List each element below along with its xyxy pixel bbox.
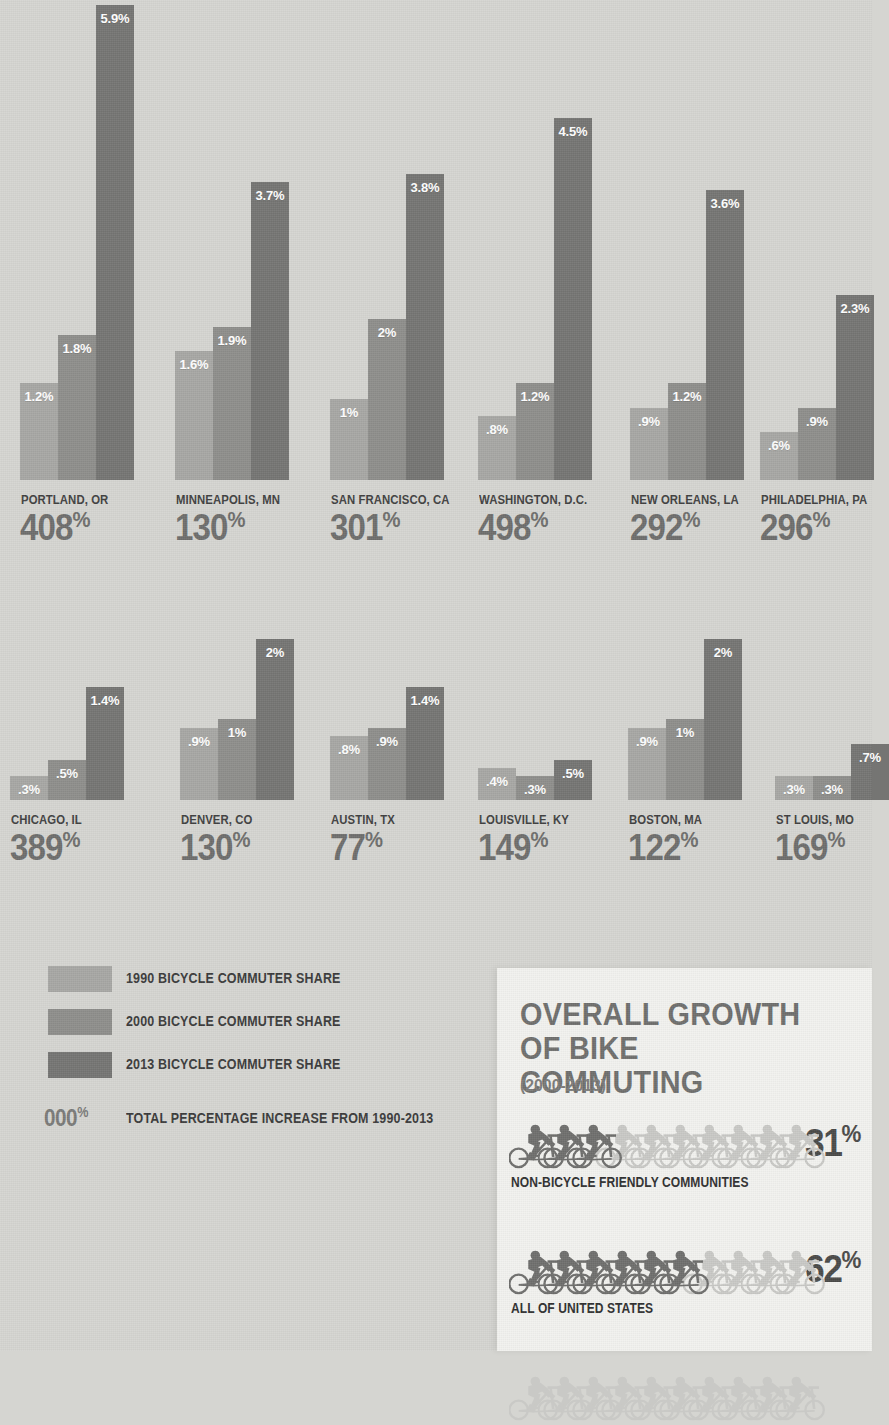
growth-row-3	[509, 1366, 869, 1425]
overall-growth-panel: OVERALL GROWTH OF BIKE COMMUTING (2000-2…	[497, 968, 872, 1351]
bar-2000: 1%	[218, 719, 256, 800]
total-number: 292	[630, 507, 683, 548]
bar-value-label: 1.2%	[20, 389, 58, 404]
bar-value-label: .4%	[478, 774, 516, 789]
bar-value-label: 3.7%	[251, 188, 289, 203]
percent-sign: %	[531, 507, 548, 532]
legend-swatch	[48, 966, 112, 992]
bar-value-label: 1.2%	[668, 389, 706, 404]
total-number: 301	[330, 507, 383, 548]
city-total-increase: 130%	[180, 829, 250, 866]
percent-sign: %	[813, 507, 830, 532]
bar-2000: .3%	[813, 776, 851, 800]
bar-1990: .3%	[10, 776, 48, 800]
growth-row-1: 31%NON-BICYCLE FRIENDLY COMMUNITIES	[509, 1114, 869, 1194]
bar-1990: 1%	[330, 399, 368, 480]
city-total-increase: 77%	[330, 829, 382, 866]
city-total-increase: 498%	[478, 509, 548, 546]
legend-item-2013: 2013 BICYCLE COMMUTER SHARE	[30, 1048, 500, 1082]
percent-sign: %	[681, 827, 698, 852]
panel-subtitle: (2000-2013)	[520, 1076, 606, 1096]
city-total-increase: 408%	[20, 509, 90, 546]
bar-2013: 2.3%	[836, 295, 874, 480]
city-total-increase: 296%	[760, 509, 830, 546]
bar-value-label: 1.8%	[58, 341, 96, 356]
city-name-label: CHICAGO, IL	[11, 812, 82, 827]
bar-value-label: 1%	[666, 725, 704, 740]
percent-sign: %	[683, 507, 700, 532]
city-name-label: NEW ORLEANS, LA	[631, 492, 739, 507]
bar-value-label: .3%	[516, 782, 554, 797]
total-number: 149	[478, 827, 531, 868]
legend-swatch	[48, 1009, 112, 1035]
bar-2000: .3%	[516, 776, 554, 800]
percent-sign: %	[233, 827, 250, 852]
legend-label: 2013 BICYCLE COMMUTER SHARE	[126, 1056, 341, 1072]
bar-2000: 1.9%	[213, 327, 251, 480]
city-total-increase: 149%	[478, 829, 548, 866]
percent-sign: %	[842, 1246, 860, 1273]
percent-sign: %	[73, 507, 90, 532]
bar-1990: .9%	[630, 408, 668, 480]
bar-2000: .9%	[798, 408, 836, 480]
total-number: 389	[10, 827, 63, 868]
city-name-label: SAN FRANCISCO, CA	[331, 492, 450, 507]
growth-row-2: 62%ALL OF UNITED STATES	[509, 1240, 869, 1320]
bar-2000: 2%	[368, 319, 406, 480]
bar-1990: .9%	[628, 728, 666, 800]
bar-2013: 1.4%	[406, 687, 444, 800]
total-number: 77	[330, 827, 365, 868]
growth-caption: ALL OF UNITED STATES	[511, 1300, 653, 1316]
bicycle-icon	[509, 1366, 565, 1424]
bar-1990: .8%	[330, 736, 368, 800]
bar-value-label: 3.6%	[706, 196, 744, 211]
bicycle-icon-scale	[509, 1114, 799, 1172]
city-name-label: BOSTON, MA	[629, 812, 702, 827]
total-number: 408	[20, 507, 73, 548]
bar-2013: 1.4%	[86, 687, 124, 800]
bar-2013: .7%	[851, 744, 889, 800]
percent-sign: %	[63, 827, 80, 852]
bar-value-label: .9%	[798, 414, 836, 429]
legend-item-1990: 1990 BICYCLE COMMUTER SHARE	[30, 962, 500, 996]
city-total-increase: 301%	[330, 509, 400, 546]
city-total-increase: 122%	[628, 829, 698, 866]
bar-2013: 2%	[256, 639, 294, 800]
bar-value-label: 2.3%	[836, 301, 874, 316]
percent-sign: %	[531, 827, 548, 852]
bar-2013: 3.7%	[251, 182, 289, 480]
legend-total-key-number: 000%	[44, 1104, 88, 1132]
bar-value-label: .6%	[760, 438, 798, 453]
bar-1990: .6%	[760, 432, 798, 480]
bar-value-label: 2%	[368, 325, 406, 340]
total-number: 498	[478, 507, 531, 548]
bar-value-label: 3.8%	[406, 180, 444, 195]
bar-value-label: .3%	[10, 782, 48, 797]
bar-1990: .3%	[775, 776, 813, 800]
bar-value-label: .9%	[368, 734, 406, 749]
bar-value-label: 2%	[704, 645, 742, 660]
city-name-label: MINNEAPOLIS, MN	[176, 492, 280, 507]
city-name-label: ST LOUIS, MO	[776, 812, 854, 827]
bar-2000: 1.2%	[668, 383, 706, 480]
percent-sign: %	[228, 507, 245, 532]
total-number: 130	[180, 827, 233, 868]
bar-1990: 1.6%	[175, 351, 213, 480]
bar-2013: .5%	[554, 760, 592, 800]
city-name-label: WASHINGTON, D.C.	[479, 492, 587, 507]
bar-1990: 1.2%	[20, 383, 58, 480]
total-number: 122	[628, 827, 681, 868]
bar-value-label: .9%	[180, 734, 218, 749]
bar-value-label: .7%	[851, 750, 889, 765]
bar-2000: .5%	[48, 760, 86, 800]
city-name-label: DENVER, CO	[181, 812, 252, 827]
bar-value-label: .9%	[628, 734, 666, 749]
city-name-label: PHILADELPHIA, PA	[761, 492, 867, 507]
city-total-increase: 169%	[775, 829, 845, 866]
bar-value-label: 1%	[330, 405, 368, 420]
bar-value-label: 1.9%	[213, 333, 251, 348]
city-total-increase: 292%	[630, 509, 700, 546]
city-name-label: PORTLAND, OR	[21, 492, 108, 507]
total-number: 169	[775, 827, 828, 868]
bar-2000: .9%	[368, 728, 406, 800]
